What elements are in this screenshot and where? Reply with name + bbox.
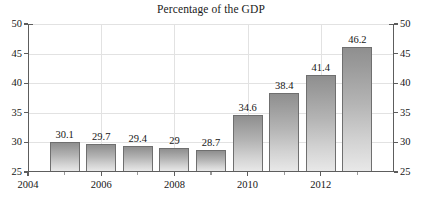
- bar: [306, 75, 336, 172]
- y-axis-tick-left: [24, 142, 28, 143]
- bars-layer: 30.129.729.42928.734.638.441.446.2: [28, 24, 394, 172]
- x-axis-label: 2004: [18, 180, 39, 191]
- bar: [196, 150, 226, 172]
- y-axis-label-left: 50: [12, 19, 23, 30]
- x-axis-label: 2012: [310, 180, 331, 191]
- y-axis-tick-right: [394, 53, 398, 54]
- x-axis-tick: [174, 172, 175, 176]
- chart-title: Percentage of the GDP: [0, 3, 422, 15]
- bar: [342, 47, 372, 173]
- x-axis-tick: [27, 172, 28, 176]
- y-axis-tick-right: [394, 83, 398, 84]
- plot-area: 30.129.729.42928.734.638.441.446.2: [28, 24, 394, 172]
- bar-value-label: 41.4: [312, 62, 330, 73]
- y-axis-right-spine: [393, 24, 394, 172]
- bar-value-label: 28.7: [202, 137, 220, 148]
- y-axis-label-right: 35: [400, 108, 411, 119]
- y-axis-tick-right: [394, 23, 398, 24]
- y-axis-left-top-cap: [28, 24, 33, 25]
- bar-value-label: 29.4: [129, 133, 147, 144]
- y-axis-tick-left: [24, 83, 28, 84]
- y-axis-tick-left: [24, 23, 28, 24]
- bar-value-label: 29.7: [92, 131, 110, 142]
- x-axis-label: 2010: [237, 180, 258, 191]
- y-axis-tick-right: [394, 142, 398, 143]
- x-axis-minor-tick: [137, 172, 138, 175]
- bar: [123, 146, 153, 172]
- bar: [159, 148, 189, 172]
- x-axis-label: 2008: [164, 180, 185, 191]
- y-axis-tick-right: [394, 112, 398, 113]
- bar-value-label: 30.1: [55, 129, 73, 140]
- x-axis-minor-tick: [210, 172, 211, 175]
- bar: [269, 93, 299, 172]
- x-axis-minor-tick: [284, 172, 285, 175]
- y-axis-label-right: 40: [400, 78, 411, 89]
- y-axis-label-left: 35: [12, 108, 23, 119]
- y-axis-tick-left: [24, 53, 28, 54]
- bar: [233, 115, 263, 172]
- x-axis-tick: [320, 172, 321, 176]
- y-axis-label-right: 25: [400, 167, 411, 178]
- y-axis-left-spine: [28, 24, 29, 172]
- chart-container: Percentage of the GDP 30.129.729.42928.7…: [0, 0, 422, 205]
- y-axis-tick-right: [394, 171, 398, 172]
- y-axis-label-left: 30: [12, 137, 23, 148]
- y-axis-label-left: 45: [12, 49, 23, 60]
- x-axis-minor-tick: [357, 172, 358, 175]
- y-axis-label-right: 50: [400, 19, 411, 30]
- y-axis-label-left: 40: [12, 78, 23, 89]
- x-axis-tick: [101, 172, 102, 176]
- bar-value-label: 38.4: [275, 80, 293, 91]
- y-axis-label-right: 30: [400, 137, 411, 148]
- bar-value-label: 29: [169, 135, 180, 146]
- y-axis-tick-left: [24, 112, 28, 113]
- bar-value-label: 34.6: [238, 102, 256, 113]
- x-axis-label: 2006: [91, 180, 112, 191]
- y-axis-label-left: 25: [12, 167, 23, 178]
- bar: [86, 144, 116, 172]
- x-axis-minor-tick: [64, 172, 65, 175]
- bar: [50, 142, 80, 172]
- x-axis-tick: [247, 172, 248, 176]
- y-axis-label-right: 45: [400, 49, 411, 60]
- bar-value-label: 46.2: [348, 34, 366, 45]
